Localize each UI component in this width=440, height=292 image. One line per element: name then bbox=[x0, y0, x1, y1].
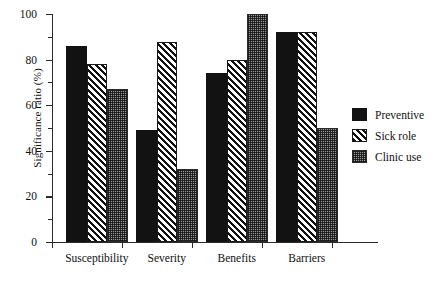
legend-item-preventive[interactable]: Preventive bbox=[352, 104, 424, 125]
x-label-susceptibility: Susceptibility bbox=[65, 252, 128, 264]
y-minor-tick-70 bbox=[48, 82, 52, 83]
x-label-benefits: Benefits bbox=[218, 252, 256, 264]
bar-benefits-preventive bbox=[206, 73, 227, 242]
checker-gray-swatch bbox=[352, 150, 367, 163]
x-tick-4 bbox=[332, 242, 333, 248]
y-tick-label-40: 40 bbox=[26, 145, 38, 157]
x-tick-0 bbox=[52, 242, 53, 248]
legend-label-preventive: Preventive bbox=[375, 109, 424, 121]
bar-benefits-clinic-use bbox=[247, 14, 268, 242]
y-tick-label-20: 20 bbox=[26, 190, 38, 202]
x-label-severity: Severity bbox=[148, 252, 186, 264]
diagonal-hatch-swatch bbox=[352, 129, 367, 142]
x-label-barriers: Barriers bbox=[288, 252, 325, 264]
y-minor-tick-90 bbox=[48, 37, 52, 38]
legend: PreventiveSick roleClinic use bbox=[352, 104, 424, 167]
bar-barriers-clinic-use bbox=[317, 128, 338, 242]
x-tick-2 bbox=[192, 242, 193, 248]
y-tick-label-60: 60 bbox=[26, 99, 38, 111]
bar-benefits-sick-role bbox=[227, 60, 248, 242]
y-tick-label-100: 100 bbox=[20, 8, 37, 20]
y-tick-label-0: 0 bbox=[31, 236, 37, 248]
legend-label-clinic-use: Clinic use bbox=[375, 151, 421, 163]
bar-susceptibility-sick-role bbox=[87, 64, 108, 242]
y-tick-label-80: 80 bbox=[26, 53, 38, 65]
legend-item-clinic-use[interactable]: Clinic use bbox=[352, 146, 424, 167]
y-tick-100: 100 bbox=[46, 14, 52, 15]
bar-severity-preventive bbox=[136, 130, 157, 242]
y-minor-tick-30 bbox=[48, 174, 52, 175]
y-tick-60: 60 bbox=[46, 105, 52, 106]
plot-area: 020406080100 SusceptibilitySeverityBenef… bbox=[52, 14, 378, 243]
y-minor-tick-10 bbox=[48, 219, 52, 220]
y-tick-20: 20 bbox=[46, 196, 52, 197]
solid-black-swatch bbox=[352, 108, 367, 121]
y-minor-tick-50 bbox=[48, 128, 52, 129]
bar-barriers-sick-role bbox=[297, 32, 318, 242]
legend-label-sick-role: Sick role bbox=[375, 130, 416, 142]
bar-susceptibility-preventive bbox=[66, 46, 87, 242]
y-tick-80: 80 bbox=[46, 60, 52, 61]
x-axis-line bbox=[52, 242, 378, 243]
x-tick-1 bbox=[122, 242, 123, 248]
y-tick-40: 40 bbox=[46, 151, 52, 152]
bar-barriers-preventive bbox=[276, 32, 297, 242]
bar-severity-clinic-use bbox=[177, 169, 198, 242]
bar-severity-sick-role bbox=[157, 42, 178, 243]
y-axis-line bbox=[52, 14, 53, 243]
legend-item-sick-role[interactable]: Sick role bbox=[352, 125, 424, 146]
bar-chart-figure: Significance ratio (%) 020406080100 Susc… bbox=[0, 0, 440, 292]
bar-susceptibility-clinic-use bbox=[107, 89, 128, 242]
x-tick-3 bbox=[262, 242, 263, 248]
